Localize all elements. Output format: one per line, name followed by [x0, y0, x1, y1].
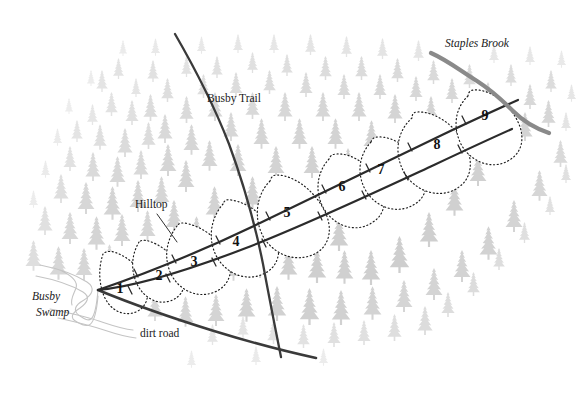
- label-busby-trail: Busby Trail: [207, 92, 261, 105]
- segment-number-8: 8: [434, 137, 441, 153]
- segment-number-2: 2: [156, 268, 163, 284]
- segment-number-4: 4: [233, 234, 240, 250]
- map-canvas: [0, 0, 582, 399]
- label-staples-brook: Staples Brook: [445, 37, 509, 50]
- segment-number-5: 5: [284, 205, 291, 221]
- segment-number-9: 9: [482, 108, 489, 124]
- label-hilltop: Hilltop: [135, 198, 168, 211]
- segment-number-1: 1: [117, 281, 124, 297]
- label-busby-swamp-line2: Swamp: [36, 306, 69, 319]
- segment-number-6: 6: [339, 179, 346, 195]
- label-busby-swamp-line1: Busby: [32, 290, 60, 303]
- segment-number-7: 7: [378, 162, 385, 178]
- forest-map: Busby Trail Staples Brook Hilltop dirt r…: [0, 0, 582, 399]
- segment-number-3: 3: [191, 254, 198, 270]
- label-dirt-road: dirt road: [140, 327, 179, 340]
